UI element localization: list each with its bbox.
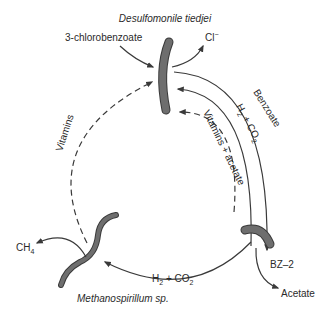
acetate-label: Acetate (281, 288, 315, 299)
chloride-label: Cl− (205, 31, 219, 43)
benzoate-arrow (174, 72, 267, 250)
chlorobenzoate-arrow (120, 46, 153, 67)
organism-label-methanospirillum: Methanospirillum sp. (77, 293, 169, 304)
vitamins-label: Vitamins (53, 113, 75, 153)
organism-label-desulfomonile: Desulfomonile tiedjei (119, 13, 212, 24)
chloride-arrow (172, 46, 203, 67)
bz2-label: BZ–2 (270, 259, 294, 270)
methane-label: CH4 (16, 242, 34, 255)
chlorobenzoate-label: 3-chlorobenzoate (65, 32, 143, 43)
methane-arrow (37, 238, 86, 257)
syntrophic-consortium-diagram: Desulfomonile tiedjei 3-chlorobenzoate C… (0, 0, 330, 317)
h2-co2-bottom-label: H2 + CO2 (152, 273, 194, 286)
methanospirillum-cell-outline (61, 215, 116, 285)
